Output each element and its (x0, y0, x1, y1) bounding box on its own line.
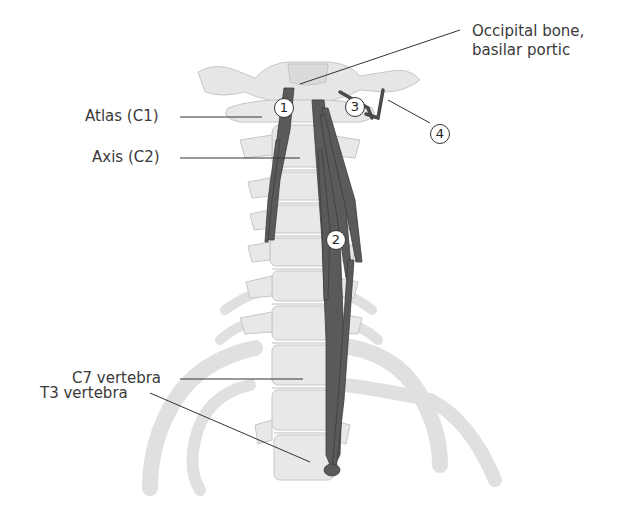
spine-illustration (0, 0, 619, 512)
anatomy-figure: Occipital bone, basilar portic Atlas (C1… (0, 0, 619, 512)
label-t3-vertebra: T3 vertebra (40, 384, 128, 403)
callout-1: 1 (274, 98, 294, 118)
occipital-bone (198, 62, 420, 104)
callout-2: 2 (326, 230, 346, 250)
label-atlas: Atlas (C1) (85, 107, 159, 126)
label-axis: Axis (C2) (92, 148, 160, 167)
callout-3: 3 (345, 97, 365, 117)
label-occipital-bone: Occipital bone, (472, 22, 584, 41)
label-basilar-portion: basilar portic (472, 41, 570, 60)
callout-4: 4 (430, 124, 450, 144)
